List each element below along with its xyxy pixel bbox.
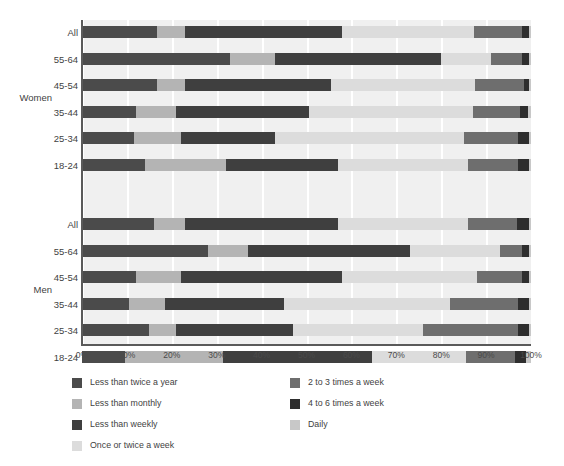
y-axis-label: 25-34 bbox=[4, 133, 78, 144]
y-axis-label: 35-44 bbox=[4, 299, 78, 310]
bar-segment bbox=[181, 271, 343, 283]
y-axis-labels: All55-6445-5435-4425-3418-24All55-6445-5… bbox=[0, 20, 78, 345]
bar-row bbox=[82, 132, 531, 144]
bar-row bbox=[82, 298, 531, 310]
y-axis-label: 45-54 bbox=[4, 80, 78, 91]
legend-swatch-icon bbox=[290, 399, 300, 409]
bar-segment bbox=[82, 106, 136, 118]
bar-segment bbox=[230, 53, 275, 65]
y-axis-label: 35-44 bbox=[4, 107, 78, 118]
y-axis-label: 45-54 bbox=[4, 272, 78, 283]
legend-item[interactable]: Daily bbox=[290, 416, 384, 433]
bar-segment bbox=[165, 298, 284, 310]
bar-segment bbox=[522, 53, 529, 65]
legend-swatch-icon bbox=[72, 399, 82, 409]
bar-segment bbox=[82, 53, 230, 65]
bar-segment bbox=[208, 245, 248, 257]
bar-segment bbox=[529, 79, 531, 91]
bar-segment bbox=[129, 298, 165, 310]
bar-segment bbox=[474, 26, 521, 38]
x-axis-tick-label: 80% bbox=[433, 350, 450, 360]
bar-segment bbox=[331, 79, 475, 91]
bar-segment bbox=[529, 26, 531, 38]
bar-segment bbox=[522, 245, 529, 257]
bar-segment bbox=[528, 106, 531, 118]
bar-row bbox=[82, 218, 531, 230]
bar-segment bbox=[522, 26, 529, 38]
bar-segment bbox=[441, 53, 490, 65]
bar-segment bbox=[82, 298, 129, 310]
bar-segment bbox=[82, 218, 154, 230]
bar-segment bbox=[342, 271, 477, 283]
bar-segment bbox=[529, 218, 531, 230]
legend-swatch-icon bbox=[290, 420, 300, 430]
legend-item[interactable]: 2 to 3 times a week bbox=[290, 374, 384, 391]
legend-swatch-icon bbox=[72, 441, 82, 451]
legend-column-1: Less than twice a yearLess than monthlyL… bbox=[72, 374, 178, 458]
bar-segment bbox=[176, 106, 308, 118]
plot-area bbox=[82, 20, 531, 345]
y-axis-label: All bbox=[4, 27, 78, 38]
y-axis-label: All bbox=[4, 219, 78, 230]
bar-segment bbox=[450, 298, 517, 310]
legend-label: Less than monthly bbox=[90, 399, 161, 408]
bar-segment bbox=[82, 132, 134, 144]
bar-segment bbox=[149, 324, 176, 336]
gridline bbox=[531, 20, 533, 345]
x-axis-tick-label: 40% bbox=[253, 350, 270, 360]
bar-segment bbox=[464, 132, 518, 144]
bar-segment bbox=[181, 132, 275, 144]
x-axis-tick-label: 70% bbox=[388, 350, 405, 360]
bar-row bbox=[82, 271, 531, 283]
bar-series-container bbox=[82, 20, 531, 345]
legend-item[interactable]: 4 to 6 times a week bbox=[290, 395, 384, 412]
bar-segment bbox=[338, 159, 468, 171]
bar-segment bbox=[136, 271, 181, 283]
legend-item[interactable]: Less than weekly bbox=[72, 416, 178, 433]
legend-item[interactable]: Less than monthly bbox=[72, 395, 178, 412]
bar-segment bbox=[518, 132, 529, 144]
y-axis-label: 18-24 bbox=[4, 160, 78, 171]
bar-segment bbox=[338, 218, 468, 230]
x-axis-tick-label: 100% bbox=[520, 350, 542, 360]
bar-segment bbox=[309, 106, 473, 118]
bar-segment bbox=[185, 26, 341, 38]
legend-label: 2 to 3 times a week bbox=[308, 378, 384, 387]
bar-segment bbox=[226, 159, 338, 171]
bar-segment bbox=[248, 245, 410, 257]
bar-segment bbox=[275, 53, 441, 65]
bar-segment bbox=[275, 132, 464, 144]
x-axis-tick-label: 0% bbox=[76, 350, 88, 360]
bar-segment bbox=[185, 79, 331, 91]
bar-row bbox=[82, 245, 531, 257]
bar-segment bbox=[529, 298, 531, 310]
group-label: Women bbox=[0, 92, 52, 103]
bar-segment bbox=[529, 271, 531, 283]
bar-segment bbox=[529, 53, 531, 65]
x-axis-line bbox=[81, 344, 531, 346]
legend-item[interactable]: Less than twice a year bbox=[72, 374, 178, 391]
bar-segment bbox=[134, 132, 181, 144]
x-axis-tick-label: 20% bbox=[163, 350, 180, 360]
x-axis-tick-label: 60% bbox=[343, 350, 360, 360]
x-axis-tick-label: 30% bbox=[208, 350, 225, 360]
bar-segment bbox=[136, 106, 176, 118]
bar-segment bbox=[473, 106, 520, 118]
bar-segment bbox=[475, 79, 524, 91]
bar-segment bbox=[342, 26, 475, 38]
bar-segment bbox=[500, 245, 522, 257]
bar-segment bbox=[468, 218, 517, 230]
bar-segment bbox=[468, 159, 517, 171]
bar-segment bbox=[529, 245, 531, 257]
legend-label: 4 to 6 times a week bbox=[308, 399, 384, 408]
bar-segment bbox=[284, 298, 450, 310]
x-axis-tick-labels: 0%10%20%30%40%50%60%70%80%90%100% bbox=[82, 350, 531, 366]
bar-segment bbox=[529, 324, 531, 336]
bar-segment bbox=[529, 159, 531, 171]
bar-segment bbox=[518, 324, 529, 336]
x-axis-tick-label: 90% bbox=[478, 350, 495, 360]
bar-row bbox=[82, 26, 531, 38]
x-axis-tick-label: 10% bbox=[118, 350, 135, 360]
bar-row bbox=[82, 79, 531, 91]
legend-item[interactable]: Once or twice a week bbox=[72, 437, 178, 454]
